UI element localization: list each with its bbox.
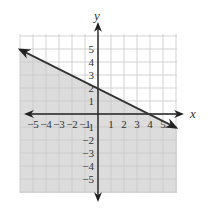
x-tick-label: 5 bbox=[160, 118, 166, 130]
x-tick-label: −2 bbox=[66, 118, 78, 130]
x-tick-label: 2 bbox=[121, 118, 127, 130]
y-tick-label: 3 bbox=[89, 69, 95, 81]
x-tick-label: 4 bbox=[147, 118, 153, 130]
coordinate-plane: x y −5−4−3−2−112345 54321−1−2−3−4−5 bbox=[0, 0, 210, 210]
x-tick-label: 1 bbox=[108, 118, 114, 130]
y-tick-label: −2 bbox=[82, 134, 94, 146]
y-tick-label: 2 bbox=[89, 82, 95, 94]
y-tick-label: 1 bbox=[89, 95, 95, 107]
x-axis-label: x bbox=[189, 106, 196, 121]
graph-container: x y −5−4−3−2−112345 54321−1−2−3−4−5 bbox=[0, 0, 210, 210]
y-tick-label: −4 bbox=[82, 160, 94, 172]
x-tick-label: 3 bbox=[134, 118, 140, 130]
x-tick-label: −5 bbox=[27, 118, 39, 130]
x-tick-label: −4 bbox=[40, 118, 52, 130]
y-tick-label: 4 bbox=[89, 56, 95, 68]
y-tick-label: −1 bbox=[82, 121, 94, 133]
y-tick-label: 5 bbox=[89, 43, 95, 55]
y-axis-label: y bbox=[92, 8, 100, 23]
x-tick-label: −3 bbox=[53, 118, 65, 130]
y-tick-label: −3 bbox=[82, 147, 94, 159]
y-tick-label: −5 bbox=[82, 173, 94, 185]
